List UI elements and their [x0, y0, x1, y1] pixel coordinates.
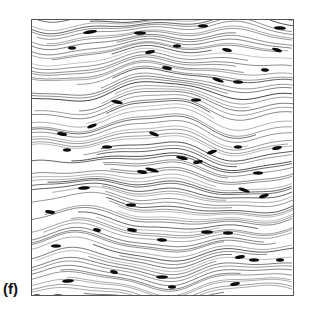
particle-marker [51, 244, 61, 247]
particle-marker [173, 44, 181, 47]
particle-marker [168, 285, 176, 288]
particle-marker [157, 238, 167, 242]
panel-label: (f) [3, 280, 18, 297]
particle-marker [272, 145, 282, 150]
particle-marker [212, 76, 224, 83]
particle-marker [222, 47, 232, 52]
particle-marker [78, 186, 90, 190]
streamline [32, 79, 228, 98]
particle-marker [127, 228, 137, 233]
particle-marker [156, 275, 168, 278]
particle-marker [253, 171, 263, 174]
streamline [117, 35, 293, 45]
particle-marker [198, 24, 208, 27]
particle-marker [207, 149, 218, 155]
streamline [32, 208, 292, 226]
streamline-texture [32, 20, 294, 296]
streamline [32, 76, 292, 95]
streamline [78, 212, 258, 229]
streamline-figure-panel [31, 19, 294, 296]
particle-marker [234, 145, 242, 148]
particle-marker [102, 145, 112, 148]
particle-marker [162, 66, 172, 71]
particle-marker [191, 98, 201, 101]
particle-marker [33, 294, 41, 296]
streamline [32, 174, 216, 187]
streamline [71, 218, 294, 236]
streamline [93, 244, 293, 261]
particle-marker [276, 258, 284, 261]
particle-marker [233, 80, 243, 84]
streamline [32, 136, 292, 156]
particle-marker [261, 68, 269, 72]
particle-marker [63, 148, 71, 151]
streamline [32, 61, 244, 79]
particle-marker [126, 203, 136, 206]
particle-marker [52, 294, 64, 296]
particle-marker [249, 258, 259, 261]
particle-marker [272, 47, 283, 53]
streamline [115, 86, 294, 105]
particle-marker [201, 230, 213, 233]
streamline [111, 167, 294, 182]
particle-marker [145, 49, 155, 54]
streamline [32, 183, 292, 198]
streamline [32, 295, 288, 296]
particle-marker [274, 26, 286, 30]
particle-marker [45, 210, 55, 215]
particle-marker [134, 31, 146, 34]
streamline [47, 26, 294, 44]
particle-marker [83, 29, 97, 34]
particle-marker [68, 46, 76, 49]
particle-marker [223, 231, 233, 234]
